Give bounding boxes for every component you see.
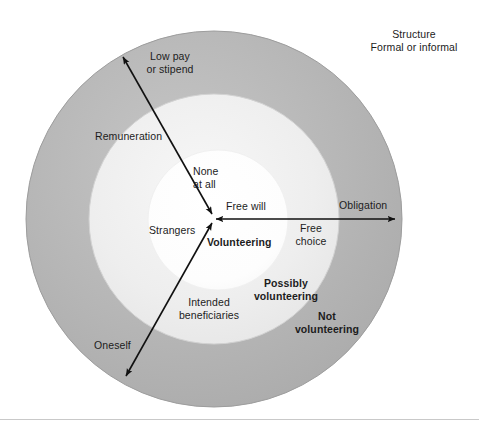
low-pay-label: Low pay or stipend bbox=[128, 50, 212, 75]
intended-beneficiaries-label: Intended beneficiaries bbox=[161, 296, 257, 321]
volunteering-rings-diagram bbox=[0, 0, 479, 426]
free-will-label: Free will bbox=[226, 200, 294, 213]
footer-divider bbox=[0, 419, 479, 420]
diagram-canvas: Structure Formal or informal Low pay or … bbox=[0, 0, 479, 426]
strangers-label: Strangers bbox=[149, 224, 217, 237]
oneself-label: Oneself bbox=[94, 339, 154, 352]
not-volunteering-label: Not volunteering bbox=[282, 310, 372, 335]
obligation-label: Obligation bbox=[339, 199, 415, 212]
remuneration-label: Remuneration bbox=[95, 130, 187, 143]
structure-label: Structure Formal or informal bbox=[355, 28, 473, 53]
none-at-all-label: None at all bbox=[193, 165, 253, 190]
free-choice-label: Free choice bbox=[287, 222, 335, 247]
